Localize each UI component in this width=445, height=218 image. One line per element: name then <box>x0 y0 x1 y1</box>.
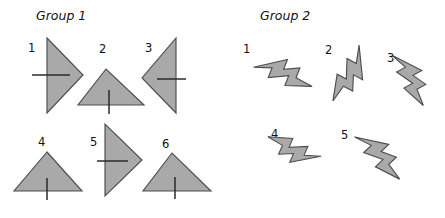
lightning-bolt-3-shape <box>392 50 430 110</box>
group-1-item-3-label: 3 <box>145 41 152 55</box>
group-2-item-2-label: 2 <box>325 43 332 57</box>
group-1-item-6: 6 <box>143 137 211 199</box>
triangle-2-shape <box>78 69 144 105</box>
triangle-4-shape <box>14 152 82 191</box>
group-1-item-4-label: 4 <box>38 135 45 149</box>
group-2-item-2: 2 <box>318 43 379 106</box>
group-1-item-5: 5 <box>90 124 142 196</box>
group-1-item-4: 4 <box>14 135 82 200</box>
group-1-item-1-label: 1 <box>28 41 35 55</box>
group-2-item-1: 1 <box>243 42 316 103</box>
group-1: Group 1 1 2 3 4 <box>14 8 211 200</box>
group-2-item-3: 3 <box>387 50 430 110</box>
lightning-bolt-5-shape <box>355 124 406 188</box>
group-1-item-2: 2 <box>78 42 144 114</box>
lightning-bolt-1-shape <box>253 45 316 103</box>
group-1-item-1: 1 <box>28 38 83 113</box>
group-2-title: Group 2 <box>260 8 310 23</box>
group-1-item-3: 3 <box>142 38 186 113</box>
shapes-diagram: Group 1 1 2 3 4 <box>0 0 445 218</box>
group-1-item-6-label: 6 <box>162 137 169 151</box>
figure-canvas: Group 1 1 2 3 4 <box>0 0 445 218</box>
group-2-item-5-label: 5 <box>341 128 348 142</box>
group-2: Group 2 1 2 3 4 5 <box>243 8 430 189</box>
group-1-title: Group 1 <box>36 8 86 23</box>
group-2-item-4: 4 <box>264 122 321 176</box>
group-2-item-5: 5 <box>341 124 406 188</box>
group-1-item-2-label: 2 <box>99 42 106 56</box>
group-1-item-5-label: 5 <box>90 135 97 149</box>
triangle-5-shape <box>105 124 142 196</box>
triangle-6-shape <box>143 153 211 191</box>
group-2-item-3-label: 3 <box>387 51 394 65</box>
group-2-item-1-label: 1 <box>243 42 250 56</box>
